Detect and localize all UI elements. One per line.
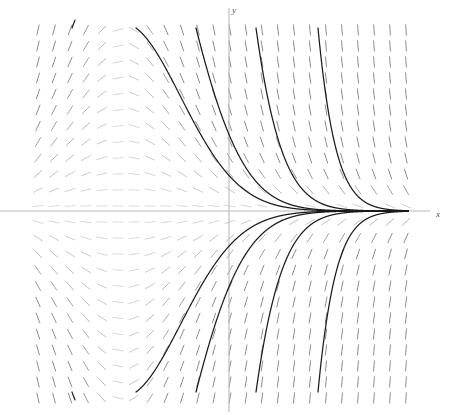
slope-tick <box>357 121 359 132</box>
slope-tick <box>389 89 390 100</box>
slope-tick <box>341 265 344 276</box>
slope-tick <box>245 377 247 388</box>
slope-tick <box>309 73 311 84</box>
slope-tick <box>52 377 55 388</box>
slope-tick <box>177 206 188 207</box>
slope-tick <box>293 121 296 132</box>
slope-tick <box>402 218 410 225</box>
slope-tick <box>326 393 327 404</box>
slope-tick <box>53 393 56 404</box>
slope-tick <box>129 379 139 385</box>
slope-tick <box>241 220 251 224</box>
slope-tick <box>276 249 281 259</box>
slope-tick <box>193 235 202 241</box>
slope-tick <box>341 313 343 324</box>
slope-tick <box>406 73 407 84</box>
slope-tick <box>261 377 263 388</box>
slope-tick <box>371 185 377 194</box>
slope-tick <box>339 186 346 195</box>
slope-tick <box>341 345 342 356</box>
slope-tick <box>113 77 124 79</box>
slope-tick <box>277 57 279 68</box>
slope-tick <box>163 329 169 338</box>
slope-tick <box>405 329 406 340</box>
slope-tick <box>293 377 294 388</box>
slope-tick <box>179 105 184 115</box>
slope-tick <box>212 313 216 323</box>
slope-tick <box>163 345 168 355</box>
slope-tick <box>113 142 124 143</box>
slope-tick <box>227 250 234 259</box>
slope-tick <box>129 332 139 336</box>
slope-tick <box>341 73 342 84</box>
slope-tick <box>33 205 44 206</box>
slope-tick <box>146 299 155 306</box>
solution-curve <box>318 211 408 392</box>
slope-tick <box>390 377 391 388</box>
slope-tick <box>81 252 91 257</box>
slope-tick <box>309 345 310 356</box>
slope-tick <box>98 331 107 338</box>
slope-tick <box>68 73 73 83</box>
slope-tick <box>341 57 342 68</box>
slope-tick <box>293 25 294 36</box>
slope-tick <box>373 73 374 84</box>
slope-tick <box>194 250 202 258</box>
slope-tick <box>274 186 282 194</box>
slope-tick <box>196 105 200 115</box>
slope-tick <box>52 41 55 52</box>
slope-tick <box>406 345 407 356</box>
slope-tick <box>276 265 280 275</box>
slope-tick <box>113 333 124 335</box>
solution-curve <box>256 211 408 392</box>
slope-tick <box>309 281 312 292</box>
slope-tick <box>162 122 169 130</box>
slope-tick <box>386 218 394 225</box>
slope-tick <box>293 313 295 324</box>
slope-tick <box>309 57 310 68</box>
slope-tick <box>36 297 40 307</box>
slope-tick <box>97 299 107 304</box>
slope-tick <box>196 89 200 99</box>
slope-tick <box>68 345 73 355</box>
slope-tick <box>97 140 107 144</box>
slope-tick <box>180 73 184 83</box>
slope-tick <box>129 27 138 33</box>
slope-tick <box>146 346 153 354</box>
slope-tick <box>49 221 60 223</box>
slope-tick <box>36 105 40 115</box>
slope-tick <box>81 189 92 191</box>
slope-tick <box>210 235 219 241</box>
slope-tick <box>36 329 39 339</box>
slope-tick <box>196 345 199 355</box>
slope-tick <box>177 188 187 192</box>
slope-tick <box>341 137 343 148</box>
slope-tick <box>163 89 169 98</box>
slope-tick <box>83 377 88 387</box>
slope-tick <box>193 221 204 224</box>
slope-tick <box>129 141 140 144</box>
slope-tick <box>147 25 153 34</box>
slope-tick <box>162 138 170 145</box>
slope-tick <box>309 297 311 308</box>
slope-tick <box>97 91 106 97</box>
slope-tick <box>277 105 279 116</box>
slope-tick <box>53 25 56 36</box>
slope-tick <box>51 138 57 147</box>
slope-tick <box>293 329 295 340</box>
slope-tick <box>113 45 124 47</box>
slope-tick <box>196 329 200 339</box>
x-axis-label: x <box>435 209 440 219</box>
slope-tick <box>309 105 311 116</box>
slope-tick <box>113 381 124 383</box>
slope-tick <box>129 157 140 159</box>
slope-tick <box>161 236 171 240</box>
slope-tick <box>308 265 311 276</box>
slope-tick <box>340 153 343 164</box>
slope-tick <box>129 348 139 353</box>
slope-tick <box>82 283 91 290</box>
slope-tick <box>308 249 312 259</box>
slope-tick <box>177 236 187 241</box>
slope-tick <box>65 236 75 240</box>
slope-tick <box>370 219 379 226</box>
